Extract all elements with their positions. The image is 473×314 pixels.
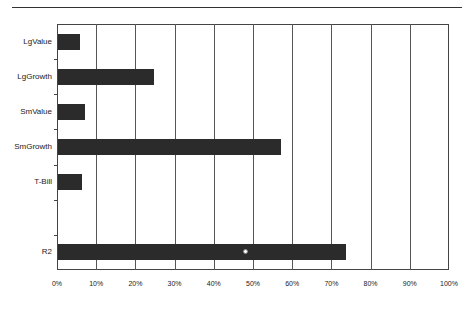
bar-smvalue	[58, 104, 85, 120]
gridline	[331, 24, 332, 270]
y-tick	[54, 94, 57, 95]
bar-t-bill	[58, 174, 82, 190]
gridline	[292, 24, 293, 270]
y-tick	[54, 129, 57, 130]
x-tick-label: 60%	[285, 280, 299, 287]
category-label: T-Bill	[34, 177, 52, 186]
x-tick-label: 0%	[52, 280, 62, 287]
bar-lggrowth	[58, 69, 154, 85]
x-tick-label: 90%	[403, 280, 417, 287]
x-tick-label: 30%	[168, 280, 182, 287]
x-tick-label: 100%	[440, 280, 458, 287]
x-tick-label: 40%	[207, 280, 221, 287]
category-label: SmValue	[20, 107, 52, 116]
y-tick	[54, 235, 57, 236]
y-tick	[54, 59, 57, 60]
x-tick-label: 20%	[128, 280, 142, 287]
x-tick-label: 70%	[324, 280, 338, 287]
gridline	[371, 24, 372, 270]
header-rule	[12, 7, 462, 8]
gridline	[410, 24, 411, 270]
category-label: SmGrowth	[14, 142, 52, 151]
y-tick	[54, 200, 57, 201]
x-tick-label: 10%	[89, 280, 103, 287]
bar-r2	[58, 244, 346, 260]
x-tick-label: 50%	[246, 280, 260, 287]
category-label: LgGrowth	[17, 72, 52, 81]
bar-lgvalue	[58, 34, 80, 50]
y-tick	[54, 165, 57, 166]
bar-smgrowth	[58, 139, 281, 155]
category-label: LgValue	[23, 37, 52, 46]
category-label: R2	[42, 247, 52, 256]
x-tick-label: 80%	[364, 280, 378, 287]
